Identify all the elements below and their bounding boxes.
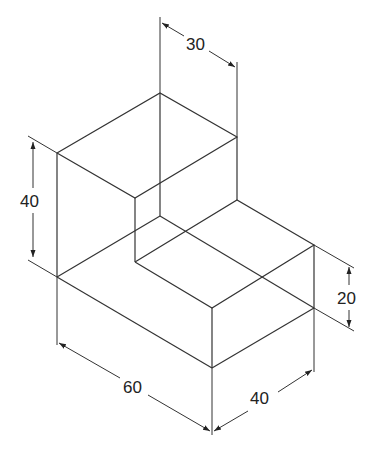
dimension-labels: 30 40 20 60 40 [20,35,356,408]
drawing-svg: 30 40 20 60 40 [0,0,381,458]
object-outline [57,93,314,368]
dim-label-length: 60 [123,378,142,397]
isometric-drawing: 30 40 20 60 40 [0,0,381,458]
dimension-lines [28,17,354,435]
dim-label-height-total: 40 [20,192,39,211]
dim-label-top-depth: 30 [186,35,205,54]
dim-label-height-step: 20 [337,289,356,308]
dim-label-width: 40 [250,389,269,408]
